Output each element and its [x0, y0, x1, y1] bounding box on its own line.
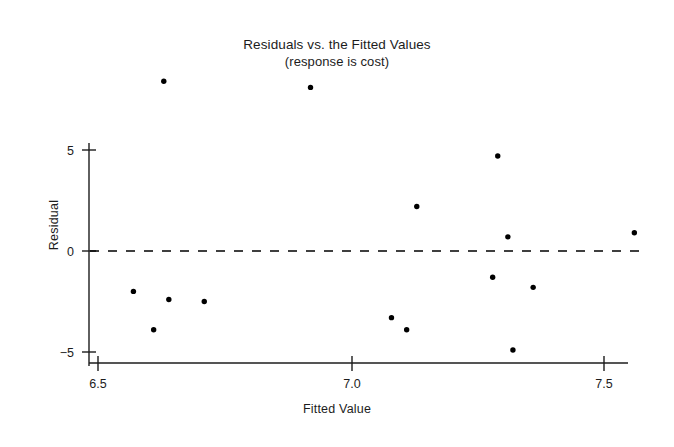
x-ticklabel-6-5: 6.5: [89, 377, 106, 391]
y-ticklabel-0: 0: [67, 245, 74, 259]
y-ticklabel-minus5: −5: [60, 346, 74, 360]
y-ticklabel-5: 5: [67, 144, 74, 158]
data-point: [505, 234, 510, 239]
data-point: [202, 299, 207, 304]
data-point: [131, 289, 136, 294]
data-point: [632, 230, 637, 235]
scatter-points-group: [131, 79, 637, 353]
data-point: [510, 347, 515, 352]
data-point: [151, 327, 156, 332]
data-point: [166, 297, 171, 302]
x-ticklabel-7-5: 7.5: [595, 377, 612, 391]
data-point: [389, 315, 394, 320]
x-ticklabel-7-0: 7.0: [343, 377, 360, 391]
y-axis: 5 0 −5: [60, 143, 96, 366]
residual-plot: Residuals vs. the Fitted Values (respons…: [0, 0, 674, 447]
data-point: [530, 285, 535, 290]
plot-canvas: 5 0 −5 6.5 7.0 7.5: [0, 0, 674, 447]
data-point: [308, 85, 313, 90]
data-point: [490, 275, 495, 280]
data-point: [404, 327, 409, 332]
data-point: [161, 79, 166, 84]
data-point: [495, 153, 500, 158]
data-point: [414, 204, 419, 209]
x-axis: 6.5 7.0 7.5: [89, 356, 628, 391]
